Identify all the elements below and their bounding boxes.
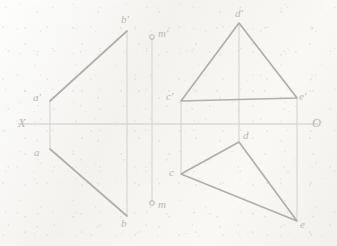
label-e-prime: e' — [299, 91, 306, 102]
label-x-axis: X — [18, 117, 26, 130]
edge-a-prime-b-prime — [50, 31, 127, 101]
object-lines-group — [50, 23, 297, 221]
triangle-cde-top-view — [181, 142, 297, 221]
label-origin: O — [312, 117, 321, 130]
construction-lines-group — [50, 23, 297, 221]
label-a-prime: a' — [33, 92, 41, 103]
label-e: e — [300, 219, 305, 230]
edge-a-b — [50, 149, 127, 216]
label-d: d — [243, 130, 249, 141]
label-m-prime: m' — [158, 28, 168, 39]
projection-drawing — [0, 0, 337, 246]
label-a: a — [34, 147, 40, 158]
label-b: b — [121, 218, 127, 229]
label-c: c — [169, 167, 174, 178]
label-c-prime: c' — [166, 91, 173, 102]
label-b-prime: b' — [121, 14, 129, 25]
label-d-prime: d' — [235, 8, 243, 19]
label-m: m — [158, 199, 166, 210]
drawing-sheet: a' b' a b m' m c' d' e' c d e X O — [0, 0, 337, 246]
